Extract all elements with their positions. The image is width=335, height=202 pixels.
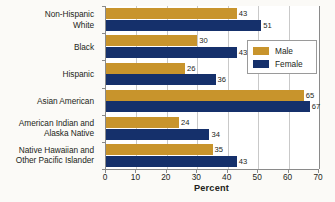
legend-swatch-female-icon: [253, 60, 269, 68]
category-label-line: Alaska Native: [0, 128, 94, 138]
category-label-line: Native Hawaiian and: [0, 145, 94, 155]
category-label-line: Other Pacific Islander: [0, 155, 94, 165]
category-label-3: Asian American: [0, 96, 94, 106]
x-tick-label-10: 10: [131, 172, 140, 182]
y-tick-0: [102, 6, 106, 7]
category-label-line: American Indian and: [0, 118, 94, 128]
bar-male-3: [106, 90, 304, 101]
category-axis: Non-HispanicWhiteBlackHispanicAsian Amer…: [0, 6, 98, 169]
bar-male-4: [106, 117, 179, 128]
bar-value-label: 43: [239, 8, 247, 19]
bar-value-label: 43: [239, 156, 247, 167]
bar-value-label: 34: [211, 129, 219, 140]
bar-female-1: [106, 47, 237, 58]
legend-item-male: Male: [253, 44, 316, 57]
x-tick-label-0: 0: [103, 172, 108, 182]
category-label-5: Native Hawaiian andOther Pacific Islande…: [0, 145, 94, 165]
bar-chart: Non-HispanicWhiteBlackHispanicAsian Amer…: [0, 0, 335, 202]
bar-value-label: 36: [218, 74, 226, 85]
bar-value-label: 24: [181, 117, 189, 128]
category-label-line: Black: [0, 42, 94, 52]
category-label-line: Hispanic: [0, 69, 94, 79]
bar-value-label: 65: [306, 90, 314, 101]
category-label-1: Black: [0, 42, 94, 52]
y-tick-5: [102, 142, 106, 143]
bar-female-2: [106, 74, 216, 85]
category-label-line: White: [0, 20, 94, 30]
bar-male-0: [106, 8, 237, 19]
bar-value-label: 43: [239, 47, 247, 58]
y-tick-3: [102, 88, 106, 89]
bar-male-1: [106, 35, 197, 46]
category-label-line: Non-Hispanic: [0, 9, 94, 19]
x-axis: 010203040506070: [105, 169, 318, 183]
bar-male-5: [106, 144, 213, 155]
bar-female-3: [106, 101, 310, 112]
bar-female-0: [106, 20, 261, 31]
category-label-4: American Indian andAlaska Native: [0, 118, 94, 138]
chart-legend: Male Female: [247, 40, 317, 74]
x-tick-label-30: 30: [192, 172, 201, 182]
x-axis-title: Percent: [105, 183, 318, 193]
legend-item-female: Female: [253, 57, 316, 70]
legend-label-male: Male: [275, 46, 293, 56]
category-label-line: Asian American: [0, 96, 94, 106]
bar-series-group: 435130432636656724343543: [106, 6, 319, 169]
bar-value-label: 67: [312, 101, 320, 112]
x-tick-label-50: 50: [253, 172, 262, 182]
legend-swatch-male-icon: [253, 47, 269, 55]
bar-value-label: 26: [187, 63, 195, 74]
y-tick-4: [102, 115, 106, 116]
x-tick-label-60: 60: [283, 172, 292, 182]
category-label-0: Non-HispanicWhite: [0, 9, 94, 29]
bar-male-2: [106, 63, 185, 74]
y-tick-1: [102, 33, 106, 34]
plot-area: 435130432636656724343543: [105, 6, 319, 170]
bar-value-label: 35: [215, 144, 223, 155]
x-tick-label-20: 20: [161, 172, 170, 182]
legend-label-female: Female: [275, 59, 303, 69]
bar-value-label: 30: [199, 35, 207, 46]
bar-female-4: [106, 129, 209, 140]
bar-value-label: 51: [263, 20, 271, 31]
y-tick-2: [102, 60, 106, 61]
x-tick-label-40: 40: [222, 172, 231, 182]
x-tick-label-70: 70: [313, 172, 322, 182]
gridline-70: [319, 6, 320, 169]
category-label-2: Hispanic: [0, 69, 94, 79]
bar-female-5: [106, 156, 237, 167]
